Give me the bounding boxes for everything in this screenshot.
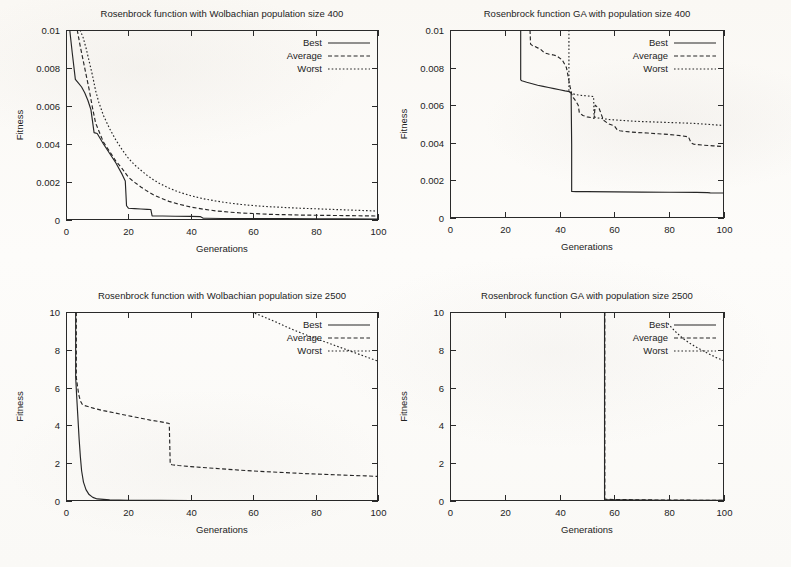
chart-svg-ga-2500: Rosenbrock function GA with population s… <box>396 285 791 567</box>
x-tick-label: 100 <box>717 224 733 235</box>
legend-label-average: Average <box>287 332 322 343</box>
chart-panel-wolbachian-400: Rosenbrock function with Wolbachian popu… <box>0 0 396 285</box>
x-axis-label: Generations <box>561 524 613 535</box>
plot-frame <box>67 313 378 501</box>
y-tick-label: 10 <box>433 307 444 318</box>
y-tick-label: 0.008 <box>36 63 60 74</box>
chart-title: Rosenbrock function GA with population s… <box>484 8 691 19</box>
chart-title: Rosenbrock function GA with population s… <box>481 290 693 301</box>
series-line-worst <box>80 30 378 211</box>
y-tick-label: 6 <box>439 383 444 394</box>
x-axis-label: Generations <box>196 524 248 535</box>
y-tick-label: 4 <box>55 420 60 431</box>
legend-label-average: Average <box>287 50 322 61</box>
x-tick-label: 100 <box>371 507 387 518</box>
legend-label-best: Best <box>303 319 322 330</box>
x-tick-label: 60 <box>609 224 620 235</box>
x-tick-label: 80 <box>664 224 675 235</box>
x-tick-label: 40 <box>555 507 566 518</box>
x-tick-label: 60 <box>248 507 259 518</box>
legend-label-average: Average <box>633 50 668 61</box>
chart-content: Rosenbrock function with Wolbachian popu… <box>14 290 386 535</box>
y-tick-label: 0.01 <box>42 25 61 36</box>
y-tick-label: 0.004 <box>420 138 444 149</box>
legend-label-worst: Worst <box>643 63 668 74</box>
x-tick-label: 20 <box>500 224 511 235</box>
chart-svg-ga-400: Rosenbrock function GA with population s… <box>396 0 791 285</box>
x-tick-label: 100 <box>717 507 733 518</box>
figure-grid: Rosenbrock function with Wolbachian popu… <box>0 0 791 567</box>
x-tick-label: 0 <box>448 507 453 518</box>
y-axis-label: Fitness <box>398 391 409 422</box>
x-tick-label: 20 <box>123 507 134 518</box>
series-line-best <box>70 30 378 219</box>
chart-legend: BestAverageWorst <box>633 37 716 74</box>
y-tick-label: 0.006 <box>36 101 60 112</box>
x-tick-label: 40 <box>186 226 197 237</box>
chart-title: Rosenbrock function with Wolbachian popu… <box>101 8 344 19</box>
x-tick-label: 60 <box>248 226 259 237</box>
x-tick-label: 40 <box>186 507 197 518</box>
legend-label-worst: Worst <box>297 63 322 74</box>
legend-label-best: Best <box>303 37 322 48</box>
plot-frame <box>67 31 378 220</box>
y-tick-label: 6 <box>55 383 60 394</box>
chart-panel-wolbachian-2500: Rosenbrock function with Wolbachian popu… <box>0 285 396 567</box>
y-tick-label: 0 <box>55 215 60 226</box>
legend-label-worst: Worst <box>297 345 322 356</box>
chart-content: Rosenbrock function GA with population s… <box>398 290 732 535</box>
y-tick-label: 0.004 <box>36 139 60 150</box>
plot-frame <box>451 313 724 501</box>
x-axis-label: Generations <box>561 241 613 252</box>
y-tick-label: 0.01 <box>426 25 445 36</box>
chart-title: Rosenbrock function with Wolbachian popu… <box>98 290 346 301</box>
y-tick-label: 0.002 <box>36 177 60 188</box>
chart-svg-wolbachian-400: Rosenbrock function with Wolbachian popu… <box>0 0 396 285</box>
y-tick-label: 0 <box>439 496 444 507</box>
y-tick-label: 0 <box>439 213 444 224</box>
chart-legend: BestAverageWorst <box>287 319 370 356</box>
y-tick-label: 0.008 <box>420 63 444 74</box>
legend-label-average: Average <box>633 332 668 343</box>
y-tick-label: 0 <box>55 496 60 507</box>
chart-panel-ga-400: Rosenbrock function GA with population s… <box>396 0 791 285</box>
series-group <box>70 30 378 219</box>
x-tick-label: 80 <box>664 507 675 518</box>
series-line-best <box>521 30 724 193</box>
series-line-worst <box>668 323 724 360</box>
series-group <box>76 312 378 501</box>
y-tick-label: 2 <box>439 458 444 469</box>
x-tick-label: 0 <box>64 507 69 518</box>
legend-label-best: Best <box>649 37 668 48</box>
y-tick-label: 10 <box>49 307 60 318</box>
y-tick-label: 2 <box>55 458 60 469</box>
x-tick-label: 0 <box>64 226 69 237</box>
chart-legend: BestAverageWorst <box>287 37 370 74</box>
chart-panel-ga-2500: Rosenbrock function GA with population s… <box>396 285 791 567</box>
x-tick-label: 0 <box>448 224 453 235</box>
y-axis-label: Fitness <box>14 391 25 422</box>
x-tick-label: 40 <box>555 224 566 235</box>
chart-content: Rosenbrock function GA with population s… <box>398 8 732 252</box>
y-axis-label: Fitness <box>398 108 409 139</box>
x-tick-label: 20 <box>500 507 511 518</box>
series-line-worst <box>569 30 724 126</box>
series-line-average <box>76 312 378 476</box>
y-tick-label: 8 <box>439 345 444 356</box>
legend-label-worst: Worst <box>643 345 668 356</box>
x-tick-label: 80 <box>311 226 322 237</box>
x-tick-label: 80 <box>311 507 322 518</box>
chart-svg-wolbachian-2500: Rosenbrock function with Wolbachian popu… <box>0 285 396 567</box>
y-tick-label: 4 <box>439 420 444 431</box>
x-tick-label: 60 <box>609 507 620 518</box>
y-tick-label: 0.002 <box>420 175 444 186</box>
x-axis-label: Generations <box>196 243 248 254</box>
x-tick-label: 20 <box>123 226 134 237</box>
x-tick-label: 100 <box>371 226 387 237</box>
series-group <box>521 30 724 193</box>
y-axis-label: Fitness <box>14 109 25 140</box>
y-tick-label: 8 <box>55 345 60 356</box>
series-line-average <box>77 30 378 216</box>
y-tick-label: 0.006 <box>420 100 444 111</box>
chart-content: Rosenbrock function with Wolbachian popu… <box>14 8 386 254</box>
